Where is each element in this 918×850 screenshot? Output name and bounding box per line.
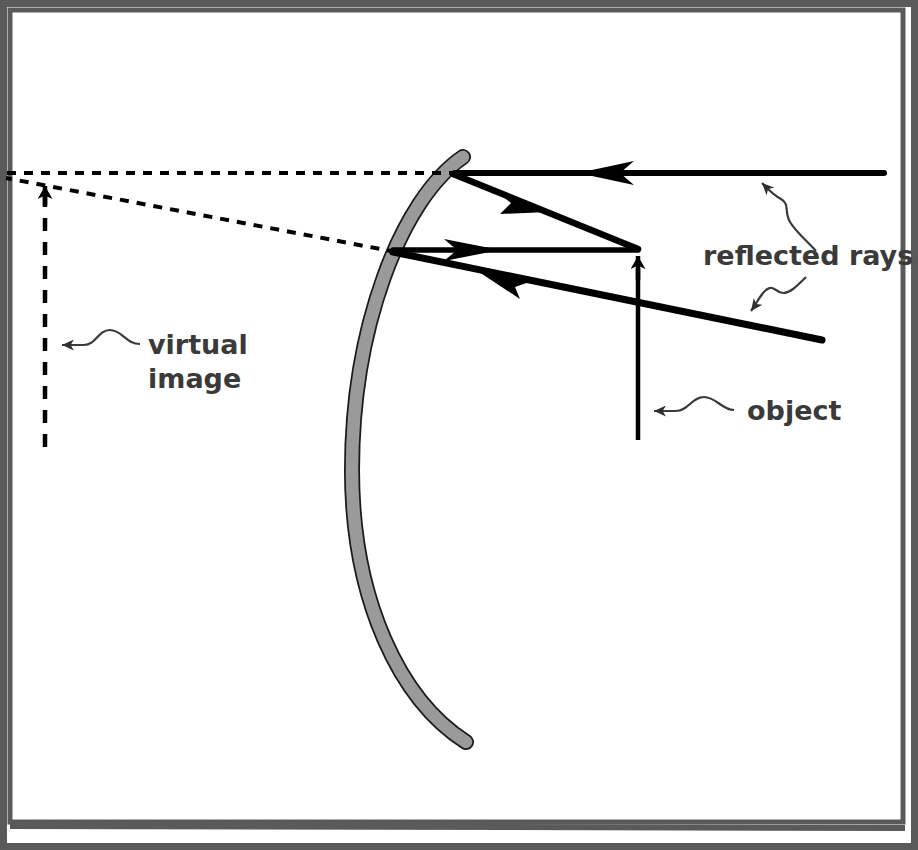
ray-diagram-canvas: virtual image reflected rays object: [0, 0, 918, 850]
virtual-image-label-line2: image: [148, 363, 241, 394]
reflected-rays-label: reflected rays: [703, 240, 913, 271]
footer-rule: [10, 826, 905, 828]
figure-root: virtual image reflected rays object: [0, 0, 918, 850]
object-label: object: [747, 395, 841, 426]
virtual-image-label-line1: virtual: [148, 329, 248, 360]
